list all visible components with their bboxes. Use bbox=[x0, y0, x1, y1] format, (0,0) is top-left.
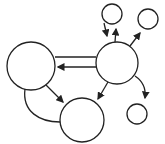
edge-b-f-curve bbox=[135, 76, 145, 98]
edge-d-b-arrow bbox=[104, 23, 107, 36]
edge-b-e-arrow bbox=[130, 33, 140, 46]
node-d bbox=[102, 4, 122, 24]
node-a bbox=[7, 42, 55, 90]
edge-b-c-arrow bbox=[98, 82, 108, 99]
node-b bbox=[96, 42, 138, 84]
node-f bbox=[127, 104, 147, 124]
edge-a-c-arrow bbox=[46, 85, 63, 102]
node-e bbox=[138, 9, 158, 29]
graph-diagram bbox=[0, 0, 165, 144]
edge-b-d-arrow bbox=[115, 29, 116, 42]
node-c bbox=[60, 98, 104, 142]
